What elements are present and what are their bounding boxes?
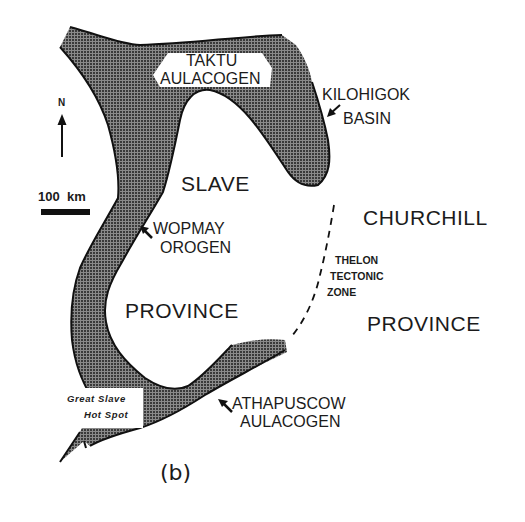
- north-arrow-icon: [58, 114, 67, 157]
- thelon-label-line1: THELON: [335, 255, 378, 266]
- thelon-label-line3: ZONE: [327, 287, 356, 298]
- slave-province-label: PROVINCE: [125, 300, 239, 321]
- panel-label: (b): [160, 462, 191, 484]
- scale-bar-icon: [41, 209, 90, 215]
- wopmay-label-line2: OROGEN: [160, 240, 231, 256]
- kilohigok-label-line2: BASIN: [343, 111, 391, 127]
- great-slave-label-line1: Great Slave: [67, 394, 126, 404]
- thelon-dashed-line: [292, 205, 334, 336]
- geologic-map: [0, 0, 525, 522]
- kilohigok-arrow-icon: [327, 105, 340, 117]
- athapuscow-label-line2: AULACOGEN: [240, 414, 340, 430]
- churchill-label: CHURCHILL: [363, 207, 488, 228]
- kilohigok-label-line1: KILOHIGOK: [322, 87, 410, 103]
- churchill-province-label: PROVINCE: [367, 313, 481, 334]
- taktu-label-line2: AULACOGEN: [160, 71, 260, 87]
- thelon-label-line2: TECTONIC: [330, 271, 383, 282]
- slave-label: SLAVE: [181, 173, 250, 194]
- athapuscow-label-line1: ATHAPUSCOW: [232, 396, 345, 412]
- wopmay-arrow-icon: [140, 226, 152, 238]
- athapuscow-arrow-icon: [218, 399, 232, 412]
- wopmay-label-line1: WOPMAY: [153, 221, 225, 237]
- great-slave-label-line2: Hot Spot: [84, 410, 128, 420]
- scale-label: 100 km: [38, 190, 86, 203]
- taktu-label-line1: TAKTU: [186, 53, 237, 69]
- north-label: N: [58, 98, 65, 108]
